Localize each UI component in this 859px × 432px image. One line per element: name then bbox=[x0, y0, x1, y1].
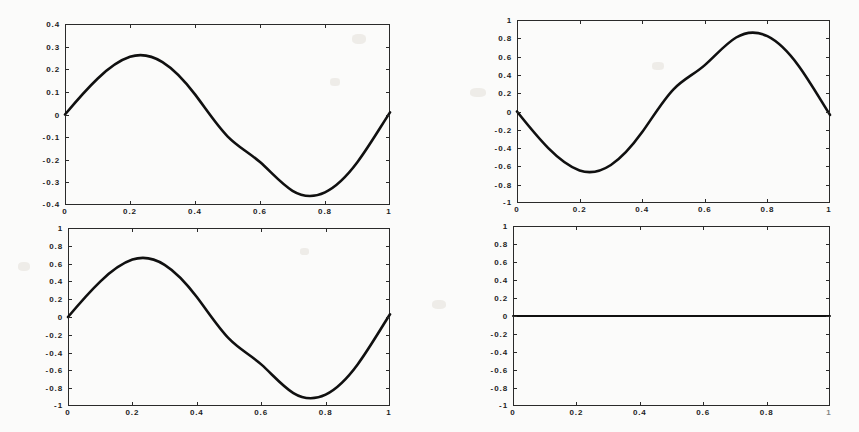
y-tick-label: 0.6 bbox=[498, 52, 512, 61]
y-tick bbox=[65, 47, 69, 48]
x-tick bbox=[705, 199, 706, 203]
x-tick-label: 0 bbox=[514, 205, 519, 214]
y-tick-label: 0.2 bbox=[494, 294, 508, 303]
y-tick-label: -0.6 bbox=[46, 366, 63, 375]
y-tick-label: -0.4 bbox=[491, 348, 508, 357]
y-tick-label: -0.4 bbox=[46, 348, 63, 357]
scan-speck bbox=[470, 88, 486, 97]
y-tick bbox=[513, 370, 517, 371]
x-tick bbox=[703, 226, 704, 230]
y-tick bbox=[517, 112, 521, 113]
x-tick bbox=[326, 402, 327, 406]
y-tick bbox=[68, 264, 72, 265]
curve-top-left bbox=[65, 24, 390, 205]
x-tick bbox=[767, 20, 768, 24]
x-tick-label: 0.6 bbox=[696, 408, 710, 417]
x-tick bbox=[197, 402, 198, 406]
y-tick bbox=[386, 115, 390, 116]
x-tick-label: 0.2 bbox=[125, 408, 139, 417]
y-tick bbox=[826, 316, 830, 317]
x-tick bbox=[389, 201, 390, 205]
x-tick-label: 0.6 bbox=[253, 207, 267, 216]
y-tick bbox=[826, 185, 830, 186]
x-tick-label: 1 bbox=[826, 205, 831, 214]
x-tick bbox=[580, 199, 581, 203]
x-tick-label: 0 bbox=[65, 408, 70, 417]
y-tick-label: -0.2 bbox=[491, 330, 508, 339]
y-tick bbox=[826, 298, 830, 299]
y-tick bbox=[68, 299, 72, 300]
y-tick bbox=[386, 47, 390, 48]
y-tick bbox=[386, 182, 390, 183]
curve-bottom-right bbox=[513, 226, 830, 406]
x-tick-label: 0.2 bbox=[569, 408, 583, 417]
y-tick bbox=[65, 182, 69, 183]
x-tick-label: 0.4 bbox=[190, 408, 204, 417]
y-tick bbox=[513, 244, 517, 245]
x-tick-label: 0 bbox=[62, 207, 67, 216]
y-tick-label: 0.2 bbox=[46, 65, 60, 74]
subplot-top-left: 0.4 0.3 0.2 0.1 0 -0.1 -0.2 -0.3 -0.4 0 … bbox=[65, 24, 390, 205]
y-tick-label: -0.8 bbox=[491, 384, 508, 393]
y-tick-label: 0.3 bbox=[46, 42, 60, 51]
y-tick bbox=[513, 298, 517, 299]
y-tick bbox=[826, 75, 830, 76]
y-tick-label: -0.8 bbox=[495, 180, 512, 189]
x-tick bbox=[65, 24, 66, 28]
y-tick-label: 1 bbox=[507, 16, 512, 25]
y-tick bbox=[65, 69, 69, 70]
y-tick bbox=[68, 246, 72, 247]
x-tick-label: 0.2 bbox=[123, 207, 137, 216]
x-tick bbox=[829, 20, 830, 24]
y-tick-label: 0.6 bbox=[49, 259, 63, 268]
y-tick bbox=[517, 185, 521, 186]
y-tick bbox=[68, 388, 72, 389]
y-tick-label: 0.8 bbox=[49, 241, 63, 250]
x-tick-label: 0.6 bbox=[698, 205, 712, 214]
y-tick bbox=[517, 75, 521, 76]
x-tick bbox=[580, 20, 581, 24]
x-tick bbox=[513, 402, 514, 406]
y-tick-label: -0.6 bbox=[491, 366, 508, 375]
x-tick bbox=[132, 402, 133, 406]
subplot-top-right: 1 0.8 0.6 0.4 0.2 0 -0.2 -0.4 -0.6 -0.8 … bbox=[517, 20, 830, 203]
y-tick bbox=[826, 93, 830, 94]
y-tick bbox=[517, 57, 521, 58]
y-tick bbox=[386, 92, 390, 93]
y-tick-label: -0.4 bbox=[43, 200, 60, 209]
y-tick-label: 0.6 bbox=[494, 258, 508, 267]
x-tick bbox=[197, 228, 198, 232]
x-tick-label: 0.8 bbox=[318, 207, 332, 216]
y-tick bbox=[513, 316, 517, 317]
y-tick bbox=[65, 92, 69, 93]
y-tick bbox=[386, 335, 390, 336]
x-tick bbox=[261, 228, 262, 232]
y-tick bbox=[68, 335, 72, 336]
x-tick bbox=[642, 199, 643, 203]
x-tick bbox=[389, 228, 390, 232]
y-tick bbox=[517, 38, 521, 39]
x-tick bbox=[829, 199, 830, 203]
x-tick bbox=[389, 402, 390, 406]
y-tick bbox=[386, 160, 390, 161]
y-tick-label: 0 bbox=[55, 110, 60, 119]
x-tick bbox=[195, 24, 196, 28]
y-tick bbox=[826, 148, 830, 149]
y-tick bbox=[826, 244, 830, 245]
x-tick bbox=[576, 402, 577, 406]
y-tick bbox=[517, 148, 521, 149]
figure-canvas: 0.4 0.3 0.2 0.1 0 -0.1 -0.2 -0.3 -0.4 0 … bbox=[0, 0, 859, 432]
x-tick bbox=[325, 24, 326, 28]
x-tick-label: 0.4 bbox=[635, 205, 649, 214]
y-tick-label: -0.3 bbox=[43, 178, 60, 187]
y-tick bbox=[826, 130, 830, 131]
y-tick bbox=[386, 299, 390, 300]
x-tick bbox=[517, 20, 518, 24]
y-tick bbox=[68, 353, 72, 354]
y-tick bbox=[386, 137, 390, 138]
x-tick bbox=[513, 226, 514, 230]
x-tick bbox=[260, 201, 261, 205]
y-tick bbox=[826, 112, 830, 113]
y-tick-label: 0.4 bbox=[49, 277, 63, 286]
x-tick-label: 1 bbox=[386, 207, 391, 216]
